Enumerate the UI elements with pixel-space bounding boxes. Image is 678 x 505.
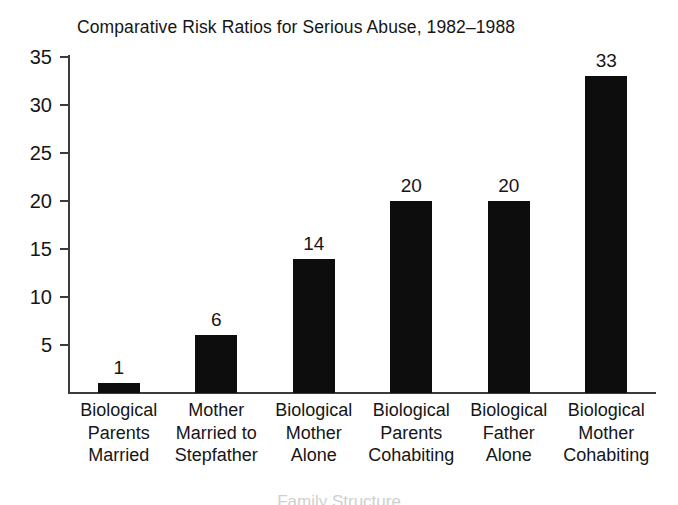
y-axis-tick-label: 35 <box>2 47 52 67</box>
x-axis-line <box>68 392 656 394</box>
y-axis-tick <box>60 200 69 202</box>
y-axis-tick <box>60 152 69 154</box>
bar <box>98 383 140 393</box>
bar <box>195 335 237 393</box>
bar-value-label: 33 <box>566 51 646 70</box>
y-axis-tick-label: 30 <box>2 95 52 115</box>
bar-value-label: 6 <box>176 310 256 329</box>
bar-value-label: 14 <box>274 234 354 253</box>
y-axis-tick-label: 10 <box>2 287 52 307</box>
bar-value-label: 1 <box>79 358 159 377</box>
y-axis-tick <box>60 296 69 298</box>
y-axis-tick <box>60 248 69 250</box>
x-axis-category-label: BiologicalMotherCohabiting <box>546 399 666 467</box>
bar-value-label: 20 <box>371 176 451 195</box>
y-axis-tick-label: 5 <box>2 335 52 355</box>
chart-title: Comparative Risk Ratios for Serious Abus… <box>77 16 515 38</box>
y-axis-tick <box>60 56 69 58</box>
y-axis-tick <box>60 344 69 346</box>
x-axis-title: Family Structure <box>0 492 678 505</box>
x-axis-label-line: Biological <box>546 399 666 422</box>
bar <box>390 201 432 393</box>
y-axis-tick-label: 15 <box>2 239 52 259</box>
y-axis-tick <box>60 104 69 106</box>
bar <box>585 76 627 393</box>
x-axis-label-line: Cohabiting <box>546 444 666 467</box>
bar <box>488 201 530 393</box>
y-axis-tick-label: 25 <box>2 143 52 163</box>
bar-value-label: 20 <box>469 176 549 195</box>
y-axis-tick-label: 20 <box>2 191 52 211</box>
x-axis-label-line: Mother <box>546 422 666 445</box>
bar <box>293 259 335 393</box>
bar-chart: Comparative Risk Ratios for Serious Abus… <box>0 0 678 505</box>
